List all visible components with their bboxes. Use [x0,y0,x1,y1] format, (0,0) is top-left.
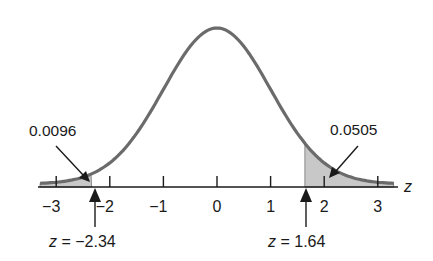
tick-label: −1 [149,198,167,215]
normal-curve [40,28,394,183]
normal-curve-chart: −3−2−10123 z 0.0096 0.0505 z = −2.34 z =… [0,0,433,261]
tick-label: 1 [266,198,275,215]
tick-label: 2 [320,198,329,215]
tick-label: 0 [213,198,222,215]
tick-label: 3 [373,198,382,215]
left-area-pointer-arrow [56,146,90,182]
tick-label: −3 [42,198,60,215]
left-z-label: z = −2.34 [48,233,116,250]
right-z-label: z = 1.64 [267,233,325,250]
right-shaded-area [305,143,394,187]
right-z-arrow [300,188,312,227]
right-area-label: 0.0505 [330,121,377,138]
axis-variable-label: z [403,178,412,195]
left-area-label: 0.0096 [29,122,76,139]
